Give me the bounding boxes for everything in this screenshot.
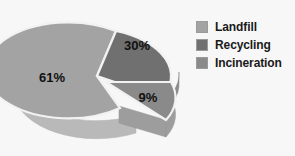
slice-label-recycling: 30% — [124, 38, 150, 53]
pie-chart-screenshot: 61% 30% 9% Landfill Recycling Incinerati… — [0, 0, 295, 156]
legend-item-landfill[interactable]: Landfill — [196, 19, 295, 35]
pie-svg: 61% 30% 9% — [0, 10, 195, 156]
chart-legend: Landfill Recycling Incineration — [196, 19, 295, 73]
slice-label-incineration: 9% — [139, 90, 158, 105]
legend-swatch-incineration — [196, 57, 208, 69]
pie-chart-graphic: 61% 30% 9% — [0, 10, 195, 156]
slice-label-landfill: 61% — [39, 70, 65, 85]
legend-label-incineration: Incineration — [215, 56, 282, 70]
legend-item-incineration[interactable]: Incineration — [196, 55, 295, 71]
legend-swatch-recycling — [196, 39, 208, 51]
legend-label-landfill: Landfill — [215, 20, 257, 34]
legend-item-recycling[interactable]: Recycling — [196, 37, 295, 53]
legend-swatch-landfill — [196, 21, 208, 33]
legend-label-recycling: Recycling — [215, 38, 271, 52]
chart-title-cropped — [0, 0, 295, 4]
